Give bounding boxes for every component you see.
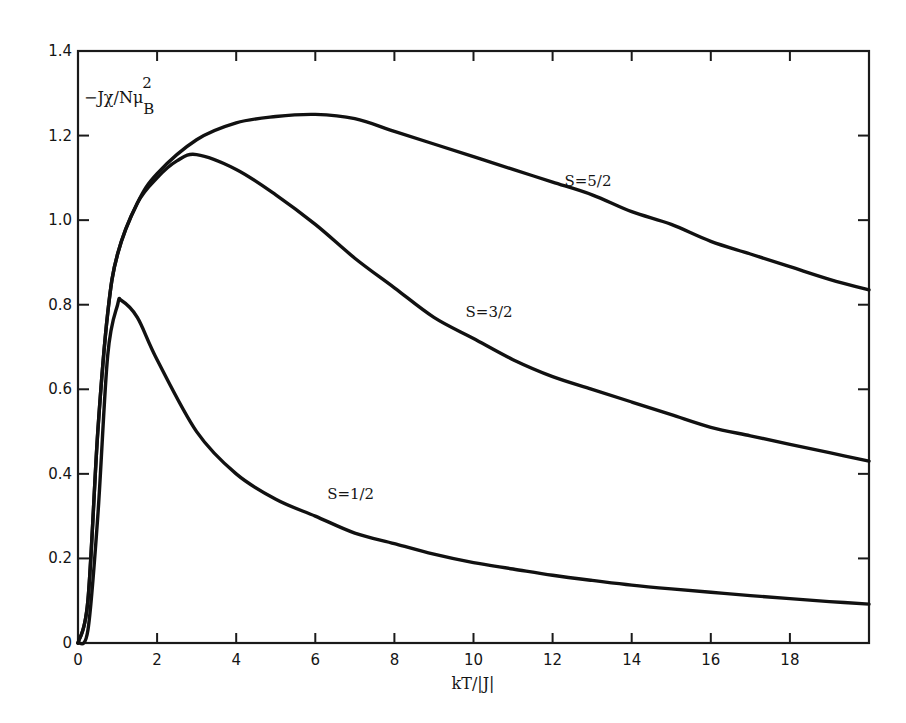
y-tick-label: 0 (62, 634, 72, 652)
x-tick-label: 10 (464, 651, 483, 669)
x-tick-label: 14 (622, 651, 641, 669)
x-tick-label: 18 (780, 651, 799, 669)
x-tick-label: 16 (701, 651, 720, 669)
y-axis-label-sup: 2 (142, 74, 152, 92)
y-axis-label-sub: B (143, 100, 154, 118)
y-tick-label: 0.8 (48, 296, 72, 314)
y-axis-label-main: −Jχ/Nμ (84, 88, 143, 107)
background (0, 0, 906, 723)
y-tick-label: 0.2 (48, 549, 72, 567)
x-tick-label: 0 (73, 651, 83, 669)
x-tick-label: 2 (152, 651, 162, 669)
x-tick-label: 4 (231, 651, 241, 669)
y-tick-label: 1.4 (48, 42, 72, 60)
series-label: S=3/2 (466, 303, 513, 321)
x-tick-label: 8 (390, 651, 400, 669)
y-tick-label: 1.0 (48, 211, 72, 229)
x-tick-label: 6 (311, 651, 321, 669)
x-axis-label: kT/|J| (452, 674, 495, 693)
y-tick-label: 1.2 (48, 127, 72, 145)
chart: 02468101214161800.20.40.60.81.01.21.4 S=… (0, 0, 906, 723)
x-tick-label: 12 (543, 651, 562, 669)
y-tick-label: 0.6 (48, 380, 72, 398)
series-label: S=5/2 (564, 172, 611, 190)
series-label: S=1/2 (327, 485, 374, 503)
y-tick-label: 0.4 (48, 465, 72, 483)
